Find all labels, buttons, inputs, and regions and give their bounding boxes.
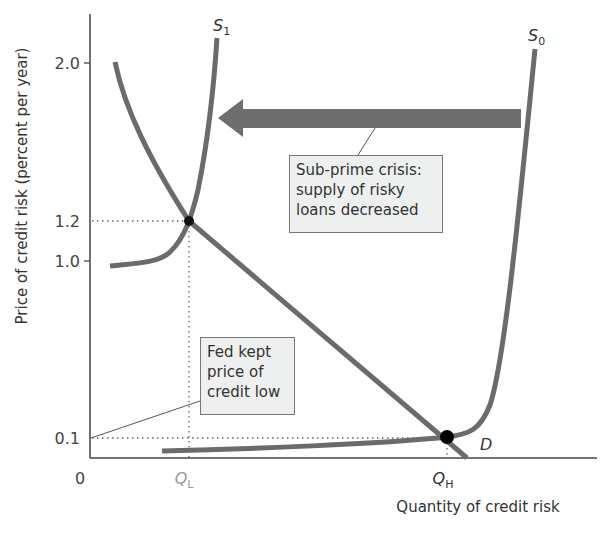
- fed-line-1: Fed kept: [207, 342, 288, 362]
- equilibrium-point-low: [184, 216, 194, 226]
- x-tick-qh: QH: [433, 469, 454, 491]
- fed-callout: Fed kept price of credit low: [200, 337, 295, 415]
- y-tick-0-1: 0.1: [55, 429, 80, 448]
- origin-label: 0: [75, 469, 85, 488]
- fed-line-3: credit low: [207, 382, 288, 402]
- subprime-leader-line: [358, 128, 375, 155]
- s0-label: S0: [528, 26, 545, 48]
- y-tick-1-2: 1.2: [55, 212, 80, 231]
- x-tick-ql: QL: [175, 469, 195, 491]
- fed-line-2: price of: [207, 362, 288, 382]
- shift-left-arrow-icon: [218, 99, 521, 137]
- y-tick-2-0: 2.0: [55, 54, 80, 73]
- subprime-line-2: supply of risky: [296, 180, 436, 200]
- fed-leader-line: [91, 401, 200, 438]
- s1-label: S1: [213, 16, 230, 38]
- y-axis-label: Price of credit risk (percent per year): [13, 48, 31, 325]
- subprime-line-1: Sub-prime crisis:: [296, 160, 436, 180]
- subprime-callout: Sub-prime crisis: supply of risky loans …: [289, 155, 443, 233]
- y-tick-1-0: 1.0: [55, 252, 80, 271]
- credit-risk-chart: 2.0 1.2 1.0 0.1 0 QL QH Quantity of cred…: [0, 0, 604, 539]
- subprime-line-3: loans decreased: [296, 200, 436, 220]
- x-axis-label: Quantity of credit risk: [396, 498, 560, 516]
- demand-label: D: [480, 435, 492, 454]
- equilibrium-point-high: [440, 430, 454, 444]
